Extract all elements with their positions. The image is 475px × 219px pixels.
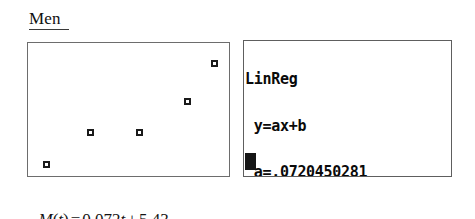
caption-close-paren: ) — [63, 210, 69, 219]
caption-intercept: 5.43 — [139, 210, 169, 219]
data-point-center — [186, 100, 189, 103]
caption-equals: = — [71, 210, 81, 219]
calc-line: LinReg — [245, 72, 367, 88]
caption-slope: 0.072 — [82, 210, 120, 219]
calculator-screen: LinReg y=ax+b a=.0720450281 b=5.42814258… — [243, 40, 452, 177]
calc-line: y=ax+b — [245, 119, 367, 135]
data-point — [87, 129, 94, 136]
calculator-cursor-block — [245, 153, 256, 170]
title-underline — [29, 29, 69, 30]
caption-plus: + — [127, 210, 137, 219]
data-point-center — [89, 131, 92, 134]
calc-line: a=.0720450281 — [245, 165, 367, 177]
data-point-center — [213, 62, 216, 65]
data-point — [211, 60, 218, 67]
page-title-label: Men — [29, 9, 61, 28]
data-point-center — [45, 163, 48, 166]
regression-equation-caption: M(t)=0.072t+5.43 — [30, 188, 169, 219]
data-point-center — [138, 131, 141, 134]
men-scatter-plot — [27, 42, 230, 177]
caption-slope-variable: t — [121, 210, 126, 219]
data-point — [136, 129, 143, 136]
caption-function-name: M — [39, 210, 53, 219]
page-title: Men — [29, 9, 69, 30]
data-point — [43, 161, 50, 168]
calculator-output-text: LinReg y=ax+b a=.0720450281 b=5.42814258… — [245, 41, 367, 177]
data-point — [184, 98, 191, 105]
